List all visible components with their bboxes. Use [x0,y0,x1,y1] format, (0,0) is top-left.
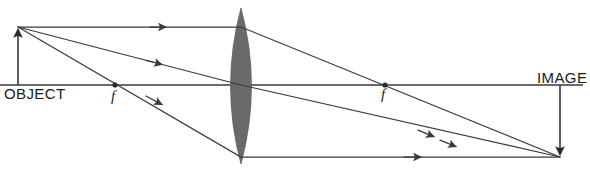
center-ray-arrow-2 [418,130,434,137]
object-label: OBJECT [4,85,66,102]
converging-lens-group [231,8,252,164]
focal-point-left-dot [112,82,117,87]
light-rays-group [18,27,560,157]
optics-ray-svg [0,0,590,173]
converging-lens [231,8,252,164]
parallel-ray [18,27,560,157]
image-label: IMAGE [537,69,587,86]
center-ray-arrow-1 [146,60,162,64]
ray-diagram-canvas: OBJECT IMAGE f f [0,0,590,173]
focal-point-left-label: f [111,88,115,105]
parallel-ray-arrow-2 [440,140,456,147]
focal-point-right-label: f [381,86,385,103]
